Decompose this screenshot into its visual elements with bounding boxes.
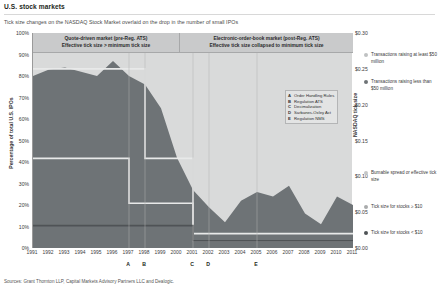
legend-swatch-icon xyxy=(364,80,368,84)
legend-swatch-icon xyxy=(364,231,368,235)
legend-label: Transactions raising at least $50 millio… xyxy=(371,52,438,65)
y-axis-left-tick: 20% xyxy=(4,202,29,208)
legend-swatch-icon xyxy=(364,171,368,175)
x-axis-ticks: 1991199219931994199519961997199819992000… xyxy=(32,250,352,259)
x-axis-tick: 2007 xyxy=(283,250,294,255)
y-axis-left-tick: 90% xyxy=(4,52,29,58)
y-axis-right-tick: $0.25 xyxy=(355,66,368,72)
event-marker-c: C xyxy=(190,261,194,267)
event-legend-label: Sarbanes-Oxley Act xyxy=(294,110,334,116)
x-axis-tick: 2010 xyxy=(331,250,342,255)
event-legend-label: Order Handling Rules xyxy=(294,93,334,99)
page-title: U.S. stock markets xyxy=(4,3,65,10)
x-axis-tick: 1998 xyxy=(139,250,150,255)
x-axis-tick: 2008 xyxy=(299,250,310,255)
legend-item: Tick size for stocks ≥ $10 xyxy=(364,204,438,211)
x-axis-tick: 2000 xyxy=(171,250,182,255)
banner-right-line2: Effective tick size collapsed to minimum… xyxy=(209,43,323,50)
legend-label: Tick size for stocks < $10 xyxy=(371,230,423,237)
sources-note: Sources: Grant Thornton LLP, Capital Mar… xyxy=(4,279,174,284)
legend-swatch-icon xyxy=(364,205,368,209)
x-axis-tick: 2001 xyxy=(187,250,198,255)
x-axis-tick: 2011 xyxy=(347,250,358,255)
x-axis-tick: 1991 xyxy=(27,250,38,255)
y-axis-right-title: NASDAQ tick size xyxy=(352,80,358,150)
header-divider xyxy=(4,14,435,15)
event-legend-label: Regulation NMS xyxy=(294,116,334,122)
x-axis-tick: 1993 xyxy=(59,250,70,255)
x-axis-tick: 2002 xyxy=(203,250,214,255)
x-axis-tick: 1995 xyxy=(91,250,102,255)
x-axis-event-markers: ABCDE xyxy=(32,261,352,270)
x-axis-tick: 2003 xyxy=(219,250,230,255)
legend-item: Bumable spread or effective tick size xyxy=(364,170,438,183)
x-axis-tick: 2009 xyxy=(315,250,326,255)
banner-quote-driven-market: Quote-driven market (pre-Reg. ATS) Effec… xyxy=(33,33,180,53)
event-marker-b: B xyxy=(142,261,146,267)
event-legend-row: AOrder Handling Rules xyxy=(288,93,334,99)
legend-item: Transactions raising at least $50 millio… xyxy=(364,52,438,65)
x-axis-tick: 1997 xyxy=(123,250,134,255)
chart-plot-area: Quote-driven market (pre-Reg. ATS) Effec… xyxy=(32,33,352,248)
x-axis-tick: 1996 xyxy=(107,250,118,255)
legend-item: Transactions raising less than $50 milli… xyxy=(364,79,438,92)
legend-label: Transactions raising less than $50 milli… xyxy=(371,79,438,92)
y-axis-left-tick: 100% xyxy=(4,30,29,36)
y-axis-left-tick: 0% xyxy=(4,245,29,251)
event-marker-d: D xyxy=(206,261,210,267)
x-axis-tick: 2004 xyxy=(235,250,246,255)
event-key-legend: AOrder Handling RulesBRegulation ATSCDec… xyxy=(285,90,338,124)
banner-electronic-order-book-market: Electronic-order-book market (post-Reg. … xyxy=(180,33,353,53)
event-marker-a: A xyxy=(126,261,130,267)
y-axis-left-tick: 80% xyxy=(4,73,29,79)
x-axis-tick: 1994 xyxy=(75,250,86,255)
legend-swatch-icon xyxy=(364,53,368,57)
event-key-table: AOrder Handling RulesBRegulation ATSCDec… xyxy=(288,93,334,121)
x-axis-tick: 1999 xyxy=(155,250,166,255)
banner-right-line1: Electronic-order-book market (post-Reg. … xyxy=(213,36,319,43)
banner-left-line2: Effective tick size > minimum tick size xyxy=(62,43,150,50)
legend-label: Tick size for stocks ≥ $10 xyxy=(371,204,422,211)
y-axis-left-title: Percentage of total U.S. IPOs xyxy=(8,94,14,172)
y-axis-left-tick: 30% xyxy=(4,181,29,187)
banner-left-line1: Quote-driven market (pre-Reg. ATS) xyxy=(65,36,148,43)
x-axis-tick: 2006 xyxy=(267,250,278,255)
y-axis-left-tick: 10% xyxy=(4,224,29,230)
legend-label: Bumable spread or effective tick size xyxy=(371,170,438,183)
event-marker-e: E xyxy=(254,261,257,267)
y-axis-right-tick: $0.30 xyxy=(355,30,368,36)
event-legend-row: ERegulation NMS xyxy=(288,116,334,122)
chart-svg xyxy=(33,33,353,248)
x-axis-tick: 1992 xyxy=(43,250,54,255)
legend-item: Tick size for stocks < $10 xyxy=(364,230,438,237)
chart-subtitle: Tick size changes on the NASDAQ Stock Ma… xyxy=(4,19,238,25)
x-axis-tick: 2005 xyxy=(251,250,262,255)
event-legend-row: DSarbanes-Oxley Act xyxy=(288,110,334,116)
